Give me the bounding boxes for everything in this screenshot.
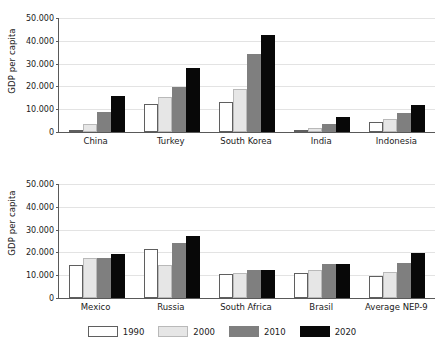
y-tick-label: 10.000	[26, 271, 54, 280]
bar	[294, 130, 308, 132]
bar	[247, 54, 261, 132]
bar-group	[360, 18, 435, 132]
bar	[83, 258, 97, 298]
x-axis-label: India	[284, 136, 359, 146]
y-tick-label: 50.000	[26, 180, 54, 189]
legend-swatch-icon	[158, 326, 188, 337]
legend-label: 2010	[264, 327, 286, 337]
legend-swatch-icon	[300, 326, 330, 337]
chart-panel-bottom: GDP per capita 010.00020.00030.00040.000…	[0, 170, 444, 322]
y-tick-label: 40.000	[26, 36, 54, 45]
y-tick-label: 10.000	[26, 105, 54, 114]
x-axis-label: China	[58, 136, 133, 146]
x-axis-label: Average NEP-9	[359, 302, 434, 312]
bar	[219, 274, 233, 298]
bar	[186, 236, 200, 298]
bar-group	[209, 184, 284, 298]
bar-group	[134, 184, 209, 298]
bar	[69, 265, 83, 298]
y-tick-label: 30.000	[26, 225, 54, 234]
chart-legend: 1990200020102020	[0, 326, 444, 337]
bar	[144, 249, 158, 298]
bar-group	[59, 18, 134, 132]
bar	[111, 96, 125, 132]
x-axis-label: Turkey	[133, 136, 208, 146]
x-axis-label: Brasil	[284, 302, 359, 312]
bar	[97, 258, 111, 298]
gdp-per-capita-figure: GDP per capita 010.00020.00030.00040.000…	[0, 0, 444, 352]
bar	[383, 119, 397, 132]
bar	[97, 112, 111, 132]
bar	[111, 254, 125, 298]
bar	[322, 124, 336, 132]
bar	[144, 104, 158, 133]
x-axis-label: South Korea	[208, 136, 283, 146]
chart-panel-top: GDP per capita 010.00020.00030.00040.000…	[0, 4, 444, 162]
bar	[69, 130, 83, 133]
x-axis-label: Mexico	[58, 302, 133, 312]
bar	[158, 265, 172, 298]
bar	[172, 87, 186, 132]
x-axis-label: Russia	[133, 302, 208, 312]
bar-group	[59, 184, 134, 298]
y-axis-title-top: GDP per capita	[7, 4, 17, 118]
bar	[261, 35, 275, 132]
bar	[336, 117, 350, 132]
legend-item: 2010	[229, 326, 286, 337]
bar	[233, 273, 247, 298]
bar-group	[285, 18, 360, 132]
bar	[247, 270, 261, 298]
bar	[397, 113, 411, 132]
bar	[369, 276, 383, 298]
bar	[186, 68, 200, 132]
bar	[261, 270, 275, 298]
bar	[397, 263, 411, 298]
plot-area-bottom: 010.00020.00030.00040.00050.000	[58, 184, 435, 299]
bar	[336, 264, 350, 298]
legend-label: 1990	[123, 327, 145, 337]
bar	[83, 124, 97, 132]
y-tick-label: 0	[49, 294, 54, 303]
legend-item: 2000	[158, 326, 215, 337]
plot-area-top: 010.00020.00030.00040.00050.000	[58, 18, 435, 133]
bar	[294, 273, 308, 298]
bar-group	[209, 18, 284, 132]
bar	[219, 102, 233, 132]
legend-swatch-icon	[229, 326, 259, 337]
bar-group	[285, 184, 360, 298]
bar-group	[360, 184, 435, 298]
bar	[308, 270, 322, 298]
x-axis-label: South Africa	[208, 302, 283, 312]
bar	[383, 272, 397, 298]
bar	[322, 264, 336, 298]
x-axis-labels-top: ChinaTurkeySouth KoreaIndiaIndonesia	[58, 136, 434, 146]
legend-label: 2000	[193, 327, 215, 337]
bar-groups-bottom	[59, 184, 435, 298]
y-tick-label: 0	[49, 128, 54, 137]
legend-item: 2020	[300, 326, 357, 337]
bar	[233, 89, 247, 132]
x-axis-label: Indonesia	[359, 136, 434, 146]
bar-groups-top	[59, 18, 435, 132]
x-axis-labels-bottom: MexicoRussiaSouth AfricaBrasilAverage NE…	[58, 302, 434, 312]
y-tick-label: 50.000	[26, 14, 54, 23]
y-tick-mark	[56, 132, 59, 133]
legend-item: 1990	[88, 326, 145, 337]
legend-label: 2020	[335, 327, 357, 337]
y-axis-title-bottom: GDP per capita	[7, 166, 17, 280]
bar	[158, 97, 172, 132]
y-tick-mark	[56, 298, 59, 299]
legend-swatch-icon	[88, 326, 118, 337]
bar	[308, 128, 322, 132]
bar	[411, 105, 425, 132]
bar	[369, 122, 383, 132]
bar	[411, 253, 425, 298]
bar-group	[134, 18, 209, 132]
y-tick-label: 20.000	[26, 248, 54, 257]
bar	[172, 243, 186, 298]
y-tick-label: 40.000	[26, 202, 54, 211]
y-tick-label: 20.000	[26, 82, 54, 91]
y-tick-label: 30.000	[26, 59, 54, 68]
